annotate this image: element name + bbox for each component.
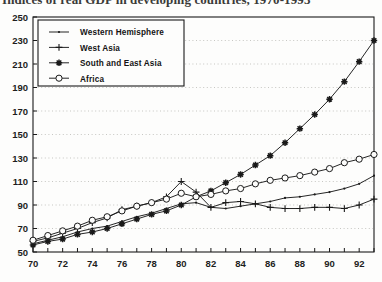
small-dot-marker-icon (358, 183, 360, 185)
star-marker-core-icon (58, 62, 61, 65)
x-tick-label: 90 (324, 258, 335, 269)
chart-legend: Western HemisphereWest AsiaSouth and Eas… (38, 20, 184, 86)
open-circle-marker-icon (341, 160, 347, 166)
series-africa (30, 151, 377, 243)
y-tick-label: 150 (12, 129, 28, 140)
page-title: Indices of real GDP in developing countr… (2, 0, 311, 8)
star-marker-core-icon (269, 154, 272, 157)
open-circle-marker-icon (178, 190, 184, 196)
star-marker-core-icon (47, 240, 50, 243)
small-dot-marker-icon (284, 197, 286, 199)
y-tick-label: 90 (17, 200, 28, 211)
star-marker-core-icon (299, 127, 302, 130)
plus-marker-icon (282, 205, 289, 212)
star-marker-core-icon (91, 231, 94, 234)
star-marker-core-icon (224, 181, 227, 184)
star-marker-core-icon (165, 210, 168, 213)
open-circle-marker-icon (193, 194, 199, 200)
open-circle-marker-icon (326, 165, 332, 171)
open-circle-marker-icon (208, 191, 214, 197)
series-west-asia (30, 178, 378, 245)
x-tick-label: 72 (57, 258, 68, 269)
open-circle-marker-icon (89, 217, 95, 223)
star-marker-core-icon (61, 238, 64, 241)
open-circle-marker-icon (312, 169, 318, 175)
legend-item-label: South and East Asia (80, 59, 162, 68)
legend-item-label: Western Hemisphere (80, 28, 164, 37)
x-tick-label: 84 (235, 258, 246, 269)
legend-item-label: Africa (80, 75, 104, 84)
small-dot-marker-icon (225, 207, 227, 209)
y-tick-label: 250 (12, 12, 28, 23)
small-dot-marker-icon (328, 191, 330, 193)
series-line (33, 182, 374, 242)
star-marker-core-icon (76, 233, 79, 236)
star-marker-core-icon (343, 80, 346, 83)
small-dot-marker-icon (373, 175, 375, 177)
star-marker-core-icon (239, 173, 242, 176)
series-western-hemisphere (32, 175, 375, 245)
open-circle-marker-icon (104, 214, 110, 220)
open-circle-marker-icon (163, 196, 169, 202)
star-marker-core-icon (32, 244, 35, 247)
x-tick-label: 78 (146, 258, 157, 269)
star-marker-core-icon (135, 218, 138, 221)
y-tick-label: 110 (13, 176, 28, 187)
small-dot-marker-icon (195, 202, 197, 204)
small-dot-marker-icon (269, 200, 271, 202)
star-marker-core-icon (254, 164, 257, 167)
x-tick-label: 76 (117, 258, 128, 269)
x-tick-label: 82 (206, 258, 217, 269)
x-tick-label: 74 (87, 258, 98, 269)
small-dot-marker-icon (58, 31, 60, 33)
x-tick-label: 88 (295, 258, 306, 269)
open-circle-marker-icon (74, 223, 80, 229)
figure-title-strip: Indices of real GDP in developing countr… (0, 0, 382, 10)
open-circle-marker-icon (134, 203, 140, 209)
open-circle-marker-icon (356, 156, 362, 162)
star-marker-core-icon (358, 60, 361, 63)
star-marker-core-icon (106, 227, 109, 230)
legend-item-label: West Asia (80, 44, 120, 53)
footer-artifact: · — ·· — ··· — ·· ——— ·· — ··· — · —— ··… (0, 273, 382, 282)
star-marker-core-icon (373, 39, 376, 42)
y-tick-label: 70 (17, 223, 28, 234)
small-dot-marker-icon (343, 187, 345, 189)
plus-marker-icon (237, 198, 244, 205)
x-tick-label: 70 (28, 258, 39, 269)
plus-marker-icon (296, 205, 303, 212)
x-tick-label: 92 (354, 258, 365, 269)
plus-marker-icon (341, 205, 348, 212)
x-tick-label: 80 (176, 258, 187, 269)
figure-root: Indices of real GDP in developing countr… (0, 0, 382, 282)
open-circle-marker-icon (60, 228, 66, 234)
star-marker-core-icon (180, 204, 183, 207)
open-circle-marker-icon (149, 200, 155, 206)
y-tick-label: 170 (12, 106, 28, 117)
plus-marker-icon (356, 202, 363, 209)
plus-marker-icon (371, 196, 378, 203)
series-line (33, 154, 374, 240)
y-tick-label: 230 (12, 35, 28, 46)
plus-marker-icon (311, 204, 318, 211)
plus-marker-icon (222, 199, 229, 206)
small-dot-marker-icon (239, 205, 241, 207)
star-marker-core-icon (284, 141, 287, 144)
open-circle-marker-icon (56, 75, 62, 81)
open-circle-marker-icon (45, 232, 51, 238)
small-dot-marker-icon (299, 196, 301, 198)
open-circle-marker-icon (119, 208, 125, 214)
x-tick-label: 86 (265, 258, 276, 269)
footer-artifact-text: · — ·· — ··· — ·· ——— ·· — ··· — · —— ··… (30, 273, 255, 276)
plus-marker-icon (252, 200, 259, 207)
plus-marker-icon (326, 204, 333, 211)
star-marker-core-icon (328, 98, 331, 101)
open-circle-marker-icon (252, 181, 258, 187)
star-marker-core-icon (121, 223, 124, 226)
y-tick-label: 190 (12, 82, 28, 93)
open-circle-marker-icon (282, 175, 288, 181)
open-circle-marker-icon (371, 151, 377, 157)
y-tick-label: 130 (12, 153, 28, 164)
star-marker-core-icon (313, 113, 316, 116)
open-circle-marker-icon (237, 185, 243, 191)
